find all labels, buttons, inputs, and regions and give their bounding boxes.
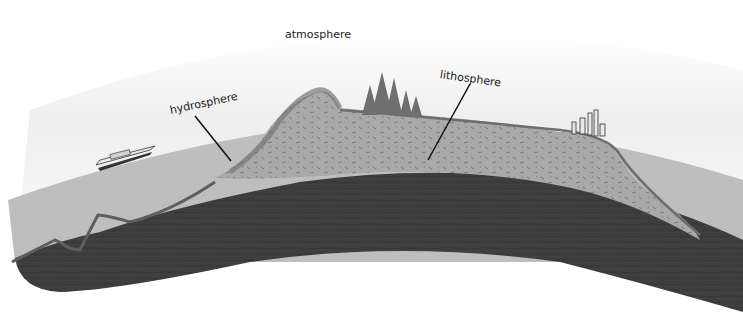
atmosphere-label: atmosphere (285, 28, 351, 41)
earth-spheres-diagram (0, 0, 743, 322)
